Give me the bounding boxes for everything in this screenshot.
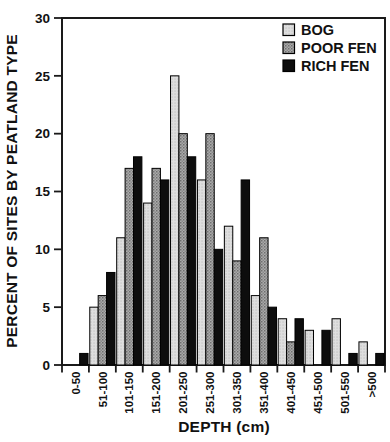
bar-poor-fen bbox=[233, 261, 241, 365]
bar-poor-fen bbox=[287, 342, 295, 365]
bar-bog bbox=[117, 238, 125, 365]
plot-area: 0510152025300-5051-100101-150151-200201-… bbox=[35, 11, 385, 414]
bar-rich-fen bbox=[349, 353, 357, 365]
bar-poor-fen bbox=[98, 296, 106, 365]
bar-rich-fen bbox=[187, 157, 195, 365]
x-category-label: 251-300 bbox=[204, 372, 216, 414]
bar-rich-fen bbox=[295, 319, 303, 365]
bar-chart: 0510152025300-5051-100101-150151-200201-… bbox=[0, 0, 390, 442]
bar-bog bbox=[90, 307, 98, 365]
bar-bog bbox=[305, 330, 313, 365]
bar-poor-fen bbox=[152, 168, 160, 365]
bar-rich-fen bbox=[322, 330, 330, 365]
legend-swatch-poor-fen bbox=[283, 42, 295, 54]
bar-bog bbox=[224, 226, 232, 365]
bar-rich-fen bbox=[160, 180, 168, 365]
y-tick-label: 30 bbox=[35, 11, 50, 26]
x-category-label: 351-400 bbox=[258, 372, 270, 414]
bar-rich-fen bbox=[107, 272, 115, 365]
legend-label-rich-fen: RICH FEN bbox=[301, 58, 369, 74]
bar-rich-fen bbox=[133, 157, 141, 365]
figure-page: 0510152025300-5051-100101-150151-200201-… bbox=[0, 0, 390, 442]
x-category-label: 201-250 bbox=[177, 372, 189, 414]
legend-label-bog: BOG bbox=[301, 22, 334, 38]
bar-bog bbox=[332, 319, 340, 365]
y-tick-label: 15 bbox=[35, 184, 51, 199]
x-category-label: 0-50 bbox=[70, 372, 82, 395]
bar-poor-fen bbox=[260, 238, 268, 365]
x-category-label: >500 bbox=[366, 372, 378, 398]
y-tick-label: 5 bbox=[42, 300, 50, 315]
y-tick-label: 20 bbox=[35, 126, 50, 141]
bar-poor-fen bbox=[179, 134, 187, 365]
x-category-label: 401-450 bbox=[285, 372, 297, 414]
bar-bog bbox=[144, 203, 152, 365]
x-category-label: 501-550 bbox=[339, 372, 351, 414]
bar-bog bbox=[171, 76, 179, 365]
legend-label-poor-fen: POOR FEN bbox=[301, 40, 377, 56]
bar-poor-fen bbox=[125, 168, 133, 365]
x-category-label: 151-200 bbox=[150, 372, 162, 414]
x-category-label: 301-350 bbox=[231, 372, 243, 414]
y-tick-label: 25 bbox=[35, 69, 51, 84]
x-category-label: 51-100 bbox=[97, 372, 109, 408]
y-tick-label: 10 bbox=[35, 242, 50, 257]
x-axis-title: DEPTH (cm) bbox=[178, 418, 270, 435]
bar-poor-fen bbox=[206, 134, 214, 365]
y-tick-label: 0 bbox=[42, 358, 50, 373]
bar-rich-fen bbox=[214, 249, 222, 365]
x-category-label: 451-500 bbox=[312, 372, 324, 414]
bar-rich-fen bbox=[80, 353, 88, 365]
bar-rich-fen bbox=[268, 307, 276, 365]
y-axis-title: PERCENT OF SITES BY PEATLAND TYPE bbox=[3, 34, 20, 347]
legend-swatch-rich-fen bbox=[283, 60, 295, 72]
bar-bog bbox=[251, 296, 259, 365]
bar-bog bbox=[278, 319, 286, 365]
bar-bog bbox=[359, 342, 367, 365]
bar-rich-fen bbox=[376, 353, 384, 365]
legend-swatch-bog bbox=[283, 24, 295, 36]
bar-rich-fen bbox=[241, 180, 249, 365]
bar-bog bbox=[197, 180, 205, 365]
x-category-label: 101-150 bbox=[123, 372, 135, 414]
